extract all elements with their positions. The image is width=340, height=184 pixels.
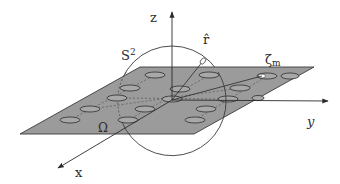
zeta-m-label: ζm bbox=[265, 52, 281, 68]
ellipse bbox=[135, 106, 155, 112]
ellipse bbox=[80, 106, 100, 112]
x-axis-label: x bbox=[75, 165, 83, 180]
ellipse bbox=[281, 73, 299, 79]
ellipse bbox=[185, 117, 205, 123]
ellipse bbox=[60, 117, 80, 123]
ellipse bbox=[218, 96, 238, 102]
zeta-m-label-base: ζ bbox=[265, 52, 272, 67]
plane-label: Ω bbox=[98, 121, 108, 135]
coordinate-diagram: z y x S2 r̂ Ω ζm bbox=[0, 0, 340, 184]
ellipse bbox=[252, 96, 264, 101]
zeta-m-label-subscript: m bbox=[272, 58, 281, 68]
ellipse bbox=[107, 95, 127, 101]
ellipse bbox=[196, 106, 216, 112]
ellipse bbox=[145, 72, 165, 78]
y-axis-label: y bbox=[306, 114, 315, 129]
ellipse bbox=[170, 86, 190, 92]
sphere-label-superscript: 2 bbox=[130, 47, 136, 57]
sphere-label-base: S bbox=[121, 48, 130, 63]
unit-vector-label: r̂ bbox=[203, 32, 210, 47]
ellipse bbox=[120, 85, 140, 91]
ellipse bbox=[230, 85, 250, 91]
ellipse bbox=[199, 72, 219, 78]
z-axis-label: z bbox=[150, 10, 157, 25]
sphere-label: S2 bbox=[121, 47, 136, 63]
